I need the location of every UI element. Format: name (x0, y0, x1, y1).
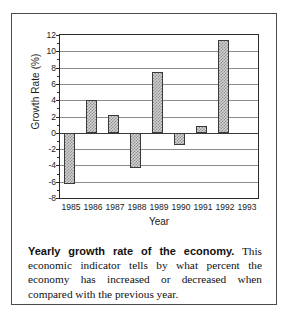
y-tick-mark (56, 100, 60, 101)
y-tick-minor (57, 174, 60, 175)
x-tick-label: 1985 (62, 202, 81, 212)
bar (152, 72, 163, 133)
y-tick-label: 12 (47, 30, 56, 40)
y-tick-minor (57, 76, 60, 77)
x-tick-label: 1991 (194, 202, 213, 212)
y-tick-label: 8 (51, 63, 56, 73)
bar (196, 126, 207, 133)
y-tick-mark (56, 51, 60, 52)
y-tick-mark (56, 165, 60, 166)
x-axis-title: Year (59, 216, 259, 227)
gridline (60, 182, 258, 183)
bar (86, 100, 97, 133)
bar (218, 40, 229, 133)
y-tick-mark (56, 68, 60, 69)
y-tick-minor (57, 157, 60, 158)
figure-caption: Yearly growth rate of the economy. This … (28, 244, 262, 301)
y-tick-label: 10 (47, 46, 56, 56)
y-tick-label: 4 (51, 95, 56, 105)
y-tick-mark (56, 182, 60, 183)
y-tick-label: -8 (48, 193, 56, 203)
y-tick-minor (57, 43, 60, 44)
y-tick-label: 0 (51, 128, 56, 138)
x-tick-label: 1989 (150, 202, 169, 212)
bar (174, 133, 185, 145)
figure-frame: Growth Rate (%) 121086420-2-4-6-81985198… (11, 13, 277, 305)
y-tick-mark (56, 117, 60, 118)
x-tick-label: 1992 (216, 202, 235, 212)
x-tick-label: 1986 (84, 202, 103, 212)
x-tick-label: 1993 (238, 202, 257, 212)
y-tick-mark (56, 133, 60, 134)
x-tick-label: 1990 (172, 202, 191, 212)
y-tick-minor (57, 108, 60, 109)
gridline (60, 165, 258, 166)
bar (64, 133, 75, 184)
y-tick-label: 2 (51, 112, 56, 122)
y-tick-mark (56, 149, 60, 150)
y-tick-minor (57, 92, 60, 93)
y-tick-mark (56, 198, 60, 199)
y-tick-label: -6 (48, 177, 56, 187)
x-tick-label: 1987 (106, 202, 125, 212)
x-tick-label: 1988 (128, 202, 147, 212)
y-tick-mark (56, 35, 60, 36)
plot-area: 121086420-2-4-6-819851986198719881989199… (59, 34, 259, 199)
y-axis-title: Growth Rate (%) (30, 32, 41, 152)
y-tick-minor (57, 125, 60, 126)
y-tick-minor (57, 141, 60, 142)
bar (108, 115, 119, 133)
zero-line (60, 133, 258, 134)
y-tick-label: -2 (48, 144, 56, 154)
bar-chart: Growth Rate (%) 121086420-2-4-6-81985198… (12, 14, 278, 236)
y-tick-minor (57, 59, 60, 60)
caption-lead: Yearly growth rate of the economy. (28, 245, 234, 257)
y-tick-label: 6 (51, 79, 56, 89)
bar (130, 133, 141, 168)
y-tick-mark (56, 84, 60, 85)
gridline (60, 149, 258, 150)
y-tick-label: -4 (48, 160, 56, 170)
y-tick-minor (57, 190, 60, 191)
